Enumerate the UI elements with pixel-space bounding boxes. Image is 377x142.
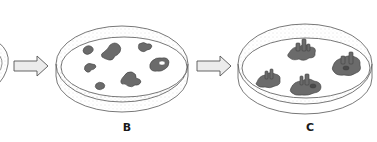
- dish-a-partial: [0, 28, 8, 104]
- figure: B C: [0, 0, 377, 142]
- arrow-b-to-c: [197, 56, 231, 76]
- dish-b: [56, 26, 188, 112]
- label-b: B: [123, 121, 131, 134]
- dish-c: [238, 24, 372, 114]
- figure-canvas: B C: [0, 0, 377, 142]
- arrow-a-to-b: [14, 56, 48, 76]
- label-c: C: [306, 121, 314, 134]
